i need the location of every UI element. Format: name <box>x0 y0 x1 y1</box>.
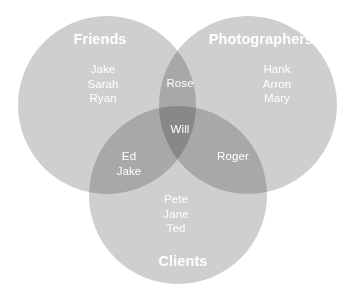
venn-circles-canvas <box>0 0 353 292</box>
circle-clients <box>89 106 267 284</box>
venn-diagram: Friends Photographers Clients Jake Sarah… <box>0 0 353 292</box>
